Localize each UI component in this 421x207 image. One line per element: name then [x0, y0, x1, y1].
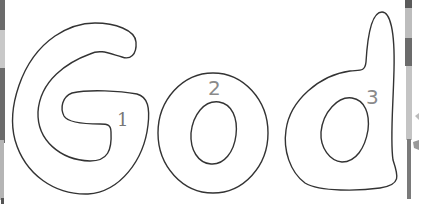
letter-g-outline: [13, 23, 149, 194]
letter-d-outline: [285, 12, 397, 190]
coloring-page: 1 2 3: [0, 0, 421, 207]
letters-outline: [0, 0, 421, 207]
letter-number-1: 1: [117, 111, 128, 129]
letter-number-2: 2: [208, 78, 221, 98]
letter-number-3: 3: [366, 87, 379, 107]
